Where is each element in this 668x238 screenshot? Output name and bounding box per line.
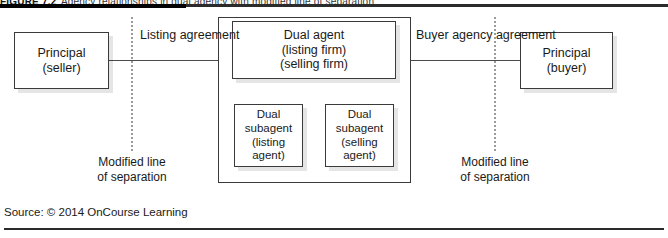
box-dual-subagent-listing-line-1: Dual xyxy=(257,108,281,122)
box-dual-agent: Dual agent (listing firm) (selling firm) xyxy=(232,21,396,79)
box-principal-buyer-line-2: (buyer) xyxy=(547,61,587,76)
caption-separation-left-line-3: separation xyxy=(111,170,167,184)
box-dual-agent-line-2: (listing firm) xyxy=(282,43,347,58)
box-dual-subagent-selling-line-3: (selling xyxy=(341,136,377,150)
header-rule-accent xyxy=(0,4,186,8)
box-dual-subagent-selling: Dual subagent (selling agent) xyxy=(325,104,394,167)
box-principal-seller-line-2: (seller) xyxy=(42,61,80,76)
caption-separation-right-line-1: Modified xyxy=(461,155,506,169)
caption-separation-left-line-1: Modified xyxy=(98,155,143,169)
label-buyer-agency-agreement-line-2: agreement xyxy=(496,28,556,42)
label-listing-agreement: Listing agreement xyxy=(140,28,220,43)
footer-rule xyxy=(4,228,664,230)
caption-modified-line-of-separation-right: Modified line of separation xyxy=(455,155,535,186)
connector-line-buyer-agency xyxy=(395,60,521,61)
label-listing-agreement-line-1: Listing xyxy=(140,28,176,42)
box-dual-agent-line-3: (selling firm) xyxy=(280,57,348,72)
label-buyer-agency-agreement: Buyer agency agreement xyxy=(416,28,496,43)
label-buyer-agency-agreement-line-1: Buyer agency xyxy=(416,28,492,42)
box-dual-subagent-selling-line-1: Dual xyxy=(348,108,372,122)
label-listing-agreement-line-2: agreement xyxy=(180,28,240,42)
box-dual-subagent-listing-line-2: subagent xyxy=(245,122,292,136)
box-dual-subagent-listing: Dual subagent (listing agent) xyxy=(234,104,303,167)
box-dual-subagent-listing-line-4: agent) xyxy=(252,149,285,163)
caption-separation-right-line-3: separation xyxy=(474,170,530,184)
box-dual-subagent-selling-line-2: subagent xyxy=(336,122,383,136)
box-principal-seller: Principal (seller) xyxy=(14,32,109,89)
box-dual-agent-line-1: Dual agent xyxy=(284,28,344,43)
box-dual-subagent-listing-line-3: (listing xyxy=(252,136,285,150)
box-principal-seller-line-1: Principal xyxy=(38,46,86,61)
caption-modified-line-of-separation-left: Modified line of separation xyxy=(92,155,172,186)
connector-line-listing xyxy=(108,60,233,61)
source-attribution: Source: © 2014 OnCourse Learning xyxy=(4,206,188,218)
box-dual-subagent-selling-line-4: agent) xyxy=(343,149,376,163)
modified-line-of-separation-left xyxy=(131,17,133,151)
box-principal-buyer-line-1: Principal xyxy=(543,46,591,61)
